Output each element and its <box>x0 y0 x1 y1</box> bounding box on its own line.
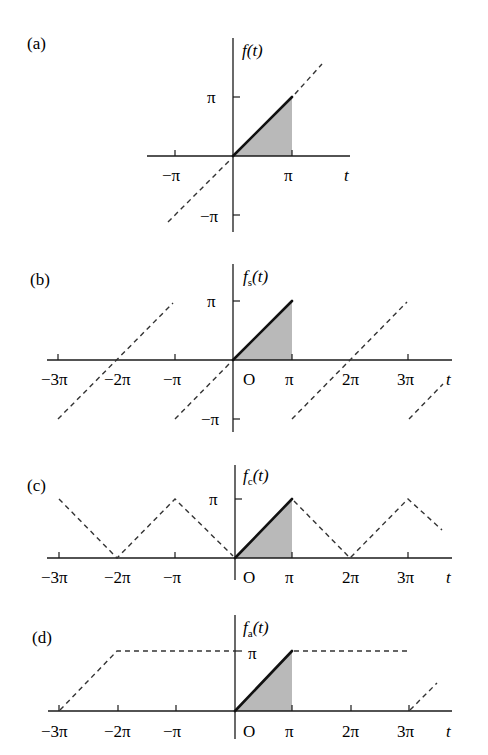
x-tick-label-2pi: 2π <box>342 370 360 389</box>
x-tick-label-neg-pi: −π <box>163 722 182 741</box>
y-tick-label-pi: π <box>248 644 257 663</box>
dashed-line <box>59 499 233 558</box>
y-tick-label-pi: π <box>209 490 218 509</box>
x-tick-label-2pi: 2π <box>342 722 360 741</box>
x-axis-label: t <box>446 568 452 587</box>
panel-b-label: (b) <box>30 270 50 289</box>
y-axis-label: fa(t) <box>243 618 269 639</box>
x-tick-label-neg-3pi: −3π <box>41 568 68 587</box>
x-tick-label-3pi: 3π <box>397 370 415 389</box>
y-tick-label-pi: π <box>207 88 216 107</box>
dashed-line <box>409 384 443 419</box>
y-tick-label-neg-pi: −π <box>200 207 219 226</box>
x-tick-label-2pi: 2π <box>342 568 360 587</box>
y-axis-label: fs(t) <box>243 267 268 288</box>
dashed-line <box>58 303 173 419</box>
y-axis-label: f(t) <box>242 41 263 60</box>
x-tick-label-neg-2pi: −2π <box>104 568 131 587</box>
x-tick-label-neg-3pi: −3π <box>41 370 68 389</box>
x-tick-label-pi: π <box>284 166 293 185</box>
x-tick-label-pi: π <box>285 568 294 587</box>
x-axis-label: t <box>344 166 350 185</box>
x-tick-label-pi: π <box>285 370 294 389</box>
dashed-line <box>410 683 437 710</box>
panel-c: (c) fc(t) π −3π −2π −π O π 2π 3π t <box>27 465 452 587</box>
panel-d: (d) fa(t) π −3π −2π −π O π 2π 3π t <box>32 615 452 741</box>
x-tick-label-neg-pi: −π <box>163 370 182 389</box>
x-axis-label: t <box>446 370 452 389</box>
x-tick-label-neg-3pi: −3π <box>41 722 68 741</box>
x-tick-label-origin: O <box>243 370 255 389</box>
y-axis-label: fc(t) <box>243 466 269 487</box>
dashed-line <box>294 499 442 558</box>
x-tick-label-neg-2pi: −2π <box>104 370 131 389</box>
y-tick-label-pi: π <box>207 292 216 311</box>
panel-b: (b) fs(t) π −π −3π −2π −π O π 2π 3π t <box>30 264 452 432</box>
x-axis-label: t <box>446 722 452 741</box>
x-tick-label-neg-2pi: −2π <box>104 722 131 741</box>
x-tick-label-3pi: 3π <box>397 568 415 587</box>
figure: (a) f(t) π −π −π π t (b) fs(t) π <box>0 0 488 755</box>
y-tick-label-neg-pi: −π <box>201 410 220 429</box>
x-tick-label-neg-pi: −π <box>162 166 181 185</box>
x-tick-label-neg-pi: −π <box>163 568 182 587</box>
panel-a: (a) f(t) π −π −π π t <box>27 34 350 232</box>
dashed-line <box>295 64 322 94</box>
x-tick-label-origin: O <box>243 722 255 741</box>
x-tick-label-3pi: 3π <box>397 722 415 741</box>
panel-d-label: (d) <box>32 628 52 647</box>
x-tick-label-pi: π <box>285 722 294 741</box>
panel-a-label: (a) <box>27 34 46 53</box>
x-tick-label-origin: O <box>243 568 255 587</box>
panel-c-label: (c) <box>27 476 46 495</box>
dashed-line <box>60 651 235 710</box>
